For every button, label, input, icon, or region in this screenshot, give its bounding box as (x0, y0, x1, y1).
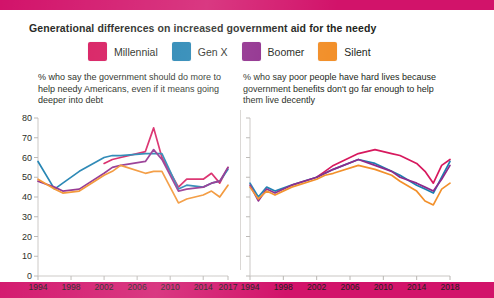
legend-label-millennial: Millennial (114, 46, 158, 58)
chart-page: Generational differences on increased go… (0, 0, 494, 298)
y-axis-label: 0 (10, 271, 32, 281)
x-axis-label: 2002 (95, 282, 114, 292)
y-axis-label: 30 (10, 212, 32, 222)
legend-item-silent[interactable]: Silent (318, 42, 370, 61)
plot-area-right: 1994199820022006201020142018 (250, 118, 450, 276)
axis-lines (250, 118, 450, 276)
panel-divider (240, 110, 241, 270)
legend-label-boomer: Boomer (268, 46, 305, 58)
y-axis-label: 20 (10, 232, 32, 242)
x-axis-label: 2010 (161, 282, 180, 292)
x-axis-label: 1994 (28, 282, 47, 292)
legend-swatch-genx (172, 42, 191, 61)
legend-swatch-silent (318, 42, 337, 61)
legend-item-genx[interactable]: Gen X (172, 42, 228, 61)
plot-area-left: 0102030405060708019941998200220062010201… (38, 118, 228, 276)
x-axis-label: 1994 (240, 282, 259, 292)
panel-left: % who say the government should do more … (38, 72, 238, 107)
x-axis-label: 2002 (307, 282, 326, 292)
legend-label-genx: Gen X (198, 46, 228, 58)
legend-label-silent: Silent (344, 46, 370, 58)
legend-swatch-millennial (88, 42, 107, 61)
series-line-millennial (317, 150, 450, 184)
x-axis-label: 2010 (374, 282, 393, 292)
series-line-boomer (38, 150, 228, 191)
x-axis-label: 2006 (340, 282, 359, 292)
y-axis-label: 80 (10, 113, 32, 123)
y-axis-label: 10 (10, 251, 32, 261)
top-accent-bar (0, 0, 494, 10)
chart-svg-left (38, 118, 228, 276)
legend-item-millennial[interactable]: Millennial (88, 42, 158, 61)
chart-svg-right (250, 118, 450, 276)
y-axis-label: 70 (10, 133, 32, 143)
x-axis-label: 2018 (440, 282, 459, 292)
x-axis-label: 2017 (218, 282, 237, 292)
x-axis-label: 2006 (128, 282, 147, 292)
legend-item-boomer[interactable]: Boomer (242, 42, 305, 61)
legend-swatch-boomer (242, 42, 261, 61)
axis-lines (38, 118, 228, 276)
page-title: Generational differences on increased go… (29, 22, 376, 34)
y-axis-label: 50 (10, 172, 32, 182)
x-axis-label: 1998 (274, 282, 293, 292)
chart-body: Generational differences on increased go… (0, 10, 494, 282)
x-axis-label: 2014 (194, 282, 213, 292)
y-axis-label: 40 (10, 192, 32, 202)
x-axis-label: 1998 (61, 282, 80, 292)
series-line-gen-x (38, 154, 228, 190)
x-axis-label: 2014 (407, 282, 426, 292)
series-line-silent (38, 165, 228, 203)
legend: Millennial Gen X Boomer Silent (88, 42, 385, 61)
panel-right: % who say poor people have hard lives be… (243, 72, 453, 107)
subtitle-left: % who say the government should do more … (38, 72, 233, 107)
y-axis-label: 60 (10, 153, 32, 163)
subtitle-right: % who say poor people have hard lives be… (243, 72, 438, 107)
